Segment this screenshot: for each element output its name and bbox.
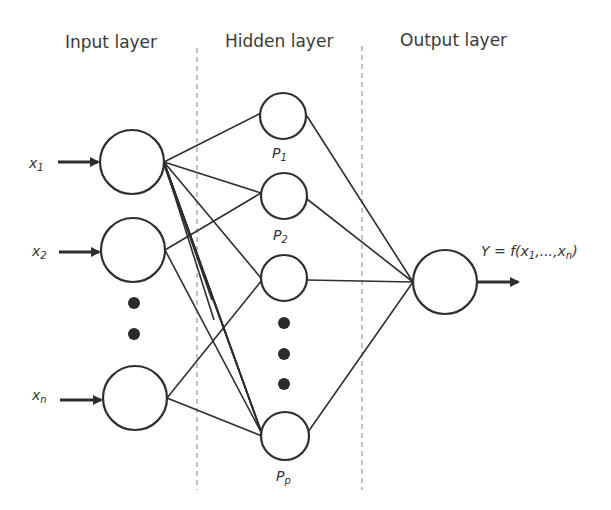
hidden-node-3 <box>261 255 307 301</box>
hidden-ellipsis-dot <box>278 317 290 329</box>
hidden-layer-header: Hidden layer <box>225 31 333 51</box>
hidden-label-p: Pp <box>276 468 291 486</box>
hidden-node-p <box>261 412 309 460</box>
hidden-label-1: P1 <box>272 145 287 163</box>
input-label-2: x2 <box>31 243 47 261</box>
input-hidden-edges <box>164 113 262 436</box>
input-label-1: x1 <box>28 155 44 173</box>
hidden-node-2 <box>261 173 307 219</box>
neural-network-diagram: Input layer Hidden layer Output layer <box>0 0 611 510</box>
hidden-ellipsis-dot <box>278 378 290 390</box>
output-node <box>413 250 477 314</box>
input-node-1 <box>100 130 164 194</box>
input-node-2 <box>101 218 165 282</box>
input-label-n: xn <box>31 387 47 405</box>
input-node-n <box>103 366 167 430</box>
input-ellipsis-dot <box>128 328 140 340</box>
input-layer-header: Input layer <box>65 32 157 52</box>
hidden-output-edges <box>307 116 413 432</box>
output-layer-header: Output layer <box>400 30 507 50</box>
hidden-node-1 <box>260 93 306 139</box>
output-label: Y = f(x1,...,xn) <box>481 243 578 261</box>
input-ellipsis-dot <box>128 297 140 309</box>
hidden-ellipsis-dot <box>278 348 290 360</box>
hidden-label-2: P2 <box>273 227 288 245</box>
